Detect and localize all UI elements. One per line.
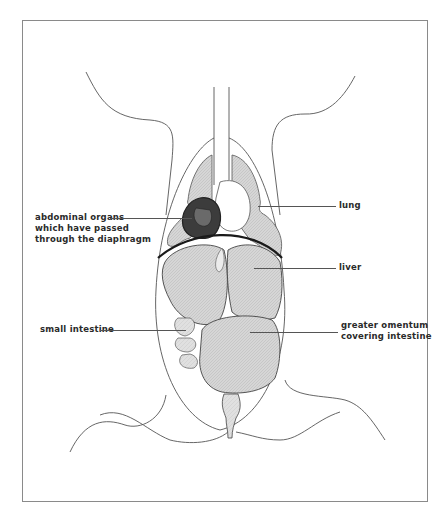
leader-line-abdominal-organs: [110, 218, 192, 219]
anatomy-illustration: [0, 0, 440, 527]
label-line-2: covering intestine: [341, 331, 432, 342]
small-intestine: [175, 318, 198, 368]
label-line-3: through the diaphragm: [35, 234, 151, 245]
leader-line-small-intestine: [100, 330, 186, 331]
label-abdominal-organs: abdominal organs which have passed throu…: [35, 212, 151, 245]
label-line-1: greater omentum: [341, 320, 432, 331]
liver-right-lobe: [227, 245, 282, 320]
label-lung: lung: [339, 200, 361, 211]
trachea: [214, 87, 229, 185]
leader-line-lung: [258, 206, 336, 207]
label-greater-omentum: greater omentum covering intestine: [341, 320, 432, 342]
leader-line-greater-omentum: [250, 332, 338, 333]
leader-line-liver: [254, 268, 336, 269]
bladder: [222, 394, 240, 438]
label-liver: liver: [339, 262, 361, 273]
label-line-2: which have passed: [35, 223, 151, 234]
greater-omentum: [200, 316, 280, 393]
